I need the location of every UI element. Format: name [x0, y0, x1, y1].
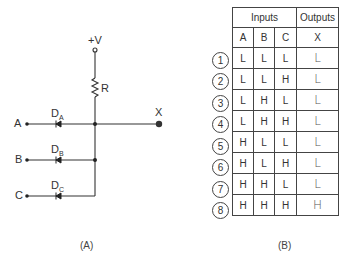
cell-c: H — [275, 153, 297, 174]
cell-x: L — [297, 153, 339, 174]
outputs-group-header: Outputs — [297, 8, 339, 28]
column-header-x: X — [297, 28, 339, 48]
cell-c: L — [275, 132, 297, 153]
input-label-c: C — [15, 189, 23, 201]
input-label-a: A — [14, 117, 21, 129]
resistor-icon — [92, 78, 98, 97]
cell-a: H — [233, 174, 254, 195]
cell-a: L — [233, 111, 254, 132]
table-row: LLHL — [233, 69, 339, 90]
row-number-7: 7 — [212, 181, 229, 198]
cell-b: L — [254, 69, 275, 90]
column-header-a: A — [233, 28, 254, 48]
column-header-b: B — [254, 28, 275, 48]
column-header-c: C — [275, 28, 297, 48]
inputs-group-header: Inputs — [233, 8, 297, 28]
cell-x: L — [297, 111, 339, 132]
row-number-4: 4 — [212, 116, 229, 133]
table-row: HHHH — [233, 195, 339, 216]
input-terminal-a — [25, 122, 29, 126]
cell-c: H — [275, 195, 297, 216]
table-row: LLLL — [233, 48, 339, 69]
output-label: X — [155, 106, 162, 118]
table-row: HHLL — [233, 174, 339, 195]
table-row: LHLL — [233, 90, 339, 111]
cell-b: H — [254, 174, 275, 195]
output-terminal — [156, 121, 162, 127]
cell-x: L — [297, 132, 339, 153]
cell-c: L — [275, 90, 297, 111]
input-terminal-c — [25, 194, 29, 198]
cell-a: H — [233, 153, 254, 174]
cell-b: H — [254, 195, 275, 216]
row-number-1: 1 — [212, 52, 229, 69]
table-row: HLHL — [233, 153, 339, 174]
cell-x: L — [297, 69, 339, 90]
supply-label: +V — [88, 34, 102, 46]
cell-b: L — [254, 132, 275, 153]
truth-table: Inputs Outputs A B C X LLLL LLHL LHLL LH… — [232, 7, 339, 216]
junction-dot — [93, 122, 97, 126]
cell-a: H — [233, 132, 254, 153]
diode-icon — [56, 193, 61, 200]
diode-icon — [56, 121, 61, 128]
caption-b: (B) — [278, 240, 291, 251]
cell-c: L — [275, 174, 297, 195]
row-number-3: 3 — [212, 95, 229, 112]
junction-dot — [93, 158, 97, 162]
cell-b: H — [254, 111, 275, 132]
row-number-2: 2 — [212, 73, 229, 90]
cell-c: L — [275, 48, 297, 69]
cell-x: L — [297, 48, 339, 69]
cell-c: H — [275, 111, 297, 132]
diode-label-a: DA — [51, 107, 64, 119]
row-number-5: 5 — [212, 138, 229, 155]
supply-terminal — [93, 48, 97, 52]
caption-a: (A) — [80, 240, 93, 251]
resistor-label: R — [101, 82, 109, 94]
cell-a: H — [233, 195, 254, 216]
cell-b: H — [254, 90, 275, 111]
cell-c: H — [275, 69, 297, 90]
table-row: HLLL — [233, 132, 339, 153]
row-number-8: 8 — [212, 202, 229, 219]
row-number-6: 6 — [212, 159, 229, 176]
cell-x: L — [297, 90, 339, 111]
cell-x: L — [297, 174, 339, 195]
diode-label-c: DC — [51, 179, 64, 191]
cell-x: H — [297, 195, 339, 216]
input-terminal-b — [25, 158, 29, 162]
cell-a: L — [233, 69, 254, 90]
cell-a: L — [233, 90, 254, 111]
cell-a: L — [233, 48, 254, 69]
diode-label-b: DB — [51, 143, 64, 155]
input-label-b: B — [15, 153, 22, 165]
cell-b: L — [254, 48, 275, 69]
diode-icon — [56, 157, 61, 164]
cell-b: L — [254, 153, 275, 174]
table-row: LHHL — [233, 111, 339, 132]
